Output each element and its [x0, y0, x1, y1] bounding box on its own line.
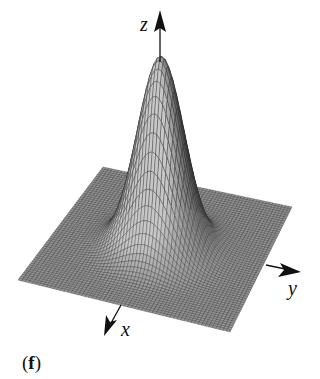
gaussian-surface-mesh	[18, 57, 292, 333]
y-axis-label: y	[286, 277, 297, 300]
x-axis-label: x	[120, 318, 130, 340]
x-axis	[104, 305, 121, 336]
z-axis	[154, 10, 166, 62]
panel-label: (f)	[22, 352, 41, 374]
y-axis	[266, 263, 301, 277]
surface-plot: z y x	[0, 0, 320, 379]
z-axis-label: z	[139, 13, 148, 35]
